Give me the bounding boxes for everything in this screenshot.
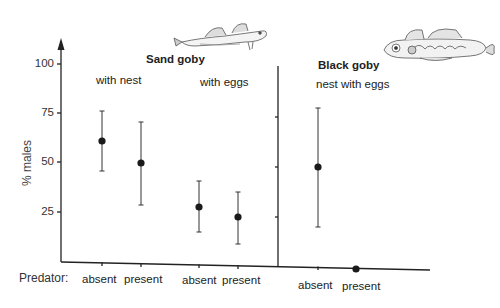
x-axis bbox=[61, 262, 430, 270]
y-axis-label: % males bbox=[20, 140, 34, 186]
y-tick-25: 25 bbox=[24, 205, 54, 217]
y-tick-75: 75 bbox=[24, 106, 54, 118]
point-sand-eggs-absent bbox=[195, 203, 202, 210]
data-points bbox=[98, 137, 359, 272]
group-label-nest-with-eggs: nest with eggs bbox=[316, 78, 390, 90]
black-goby-title: Black goby bbox=[318, 59, 379, 71]
sand-goby-title: Sand goby bbox=[146, 53, 205, 65]
x-cat-sand-eggs-absent: absent bbox=[182, 274, 217, 286]
y-axis bbox=[57, 46, 61, 262]
x-cat-sand-nest-absent: absent bbox=[82, 273, 117, 285]
x-axis-prefix: Predator: bbox=[19, 271, 68, 285]
x-cat-sand-nest-present: present bbox=[124, 273, 162, 285]
y-axis-arrow-icon bbox=[58, 38, 65, 50]
point-black-absent bbox=[314, 163, 321, 170]
chart-canvas bbox=[0, 0, 500, 308]
group-label-with-eggs: with eggs bbox=[200, 76, 249, 88]
x-cat-sand-eggs-present: present bbox=[222, 274, 260, 286]
x-cat-black-absent: absent bbox=[298, 279, 333, 291]
point-sand-eggs-present bbox=[234, 213, 241, 220]
x-cat-black-present: present bbox=[342, 280, 380, 292]
panel-divider bbox=[275, 66, 278, 266]
group-label-with-nest: with nest bbox=[96, 74, 141, 86]
point-sand-nest-present bbox=[137, 159, 144, 166]
black-goby-illustration-icon bbox=[384, 29, 494, 61]
error-bars bbox=[100, 108, 321, 244]
point-black-present bbox=[352, 265, 359, 272]
point-sand-nest-absent bbox=[98, 137, 105, 144]
y-tick-100: 100 bbox=[24, 57, 54, 69]
sand-goby-illustration-icon bbox=[174, 24, 267, 50]
